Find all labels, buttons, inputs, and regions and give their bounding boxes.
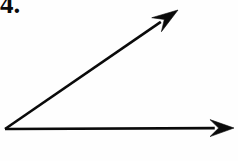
horizontal-ray-line	[5, 128, 215, 129]
diagonal-ray	[5, 10, 178, 129]
angle-figure: 4.	[0, 0, 238, 161]
diagonal-ray-arrowhead-icon	[152, 10, 178, 32]
angle-drawing	[0, 0, 238, 161]
diagonal-ray-line	[5, 22, 161, 129]
horizontal-ray	[5, 120, 234, 137]
